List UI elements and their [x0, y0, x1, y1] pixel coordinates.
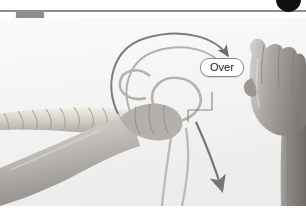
photograph-canvas	[0, 18, 306, 206]
instruction-step-figure: 3	[0, 0, 306, 215]
step-photograph	[0, 18, 306, 206]
header-divider-rule	[0, 10, 306, 12]
callout-over: Over	[200, 58, 244, 77]
